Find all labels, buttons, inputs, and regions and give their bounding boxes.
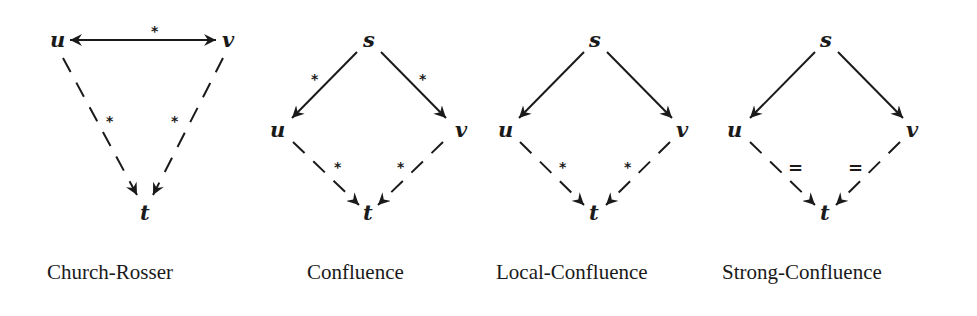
edge-v-t-dashed xyxy=(606,142,670,205)
node-v: v xyxy=(222,27,235,52)
edge-s-u xyxy=(292,52,357,118)
node-u: u xyxy=(498,117,513,142)
node-t: t xyxy=(820,200,830,225)
annotation-star: * xyxy=(419,71,427,87)
edge-v-t-dashed xyxy=(153,58,223,195)
edge-s-u xyxy=(519,52,584,118)
annotation-star: * xyxy=(171,113,179,129)
caption-strong-confluence: Strong-Confluence xyxy=(722,260,882,284)
caption-confluence: Confluence xyxy=(307,260,404,284)
node-u: u xyxy=(50,27,65,52)
caption-church-rosser: Church-Rosser xyxy=(47,260,173,284)
node-t: t xyxy=(589,200,599,225)
node-u: u xyxy=(727,117,742,142)
node-u: u xyxy=(270,117,285,142)
annotation-star: * xyxy=(559,159,567,175)
annotation-star: * xyxy=(311,71,319,87)
node-v: v xyxy=(455,117,468,142)
caption-local-confluence: Local-Confluence xyxy=(496,260,648,284)
node-v: v xyxy=(676,117,689,142)
node-t: t xyxy=(363,200,373,225)
node-s: s xyxy=(588,27,601,52)
annotation-star: * xyxy=(151,23,159,39)
edge-s-u xyxy=(750,52,815,118)
diagram-confluence: s u v t * * * * xyxy=(270,27,468,225)
node-s: s xyxy=(819,27,832,52)
diagram-local-confluence: s u v t * * xyxy=(498,27,689,225)
edge-s-v xyxy=(607,52,672,118)
annotation-star: * xyxy=(106,113,114,129)
diagram-strong-confluence: s u v t = = xyxy=(727,27,919,225)
edge-s-v xyxy=(381,52,446,118)
edge-u-t-dashed xyxy=(293,142,359,205)
edge-s-v xyxy=(838,52,903,118)
annotation-equals: = xyxy=(848,157,863,178)
node-v: v xyxy=(906,117,919,142)
annotation-star: * xyxy=(397,159,405,175)
annotation-equals: = xyxy=(788,157,803,178)
edge-v-t-dashed xyxy=(378,142,443,205)
edge-u-t-dashed xyxy=(520,142,584,205)
node-t: t xyxy=(140,200,150,225)
diagram-church-rosser: u v t * * * xyxy=(50,23,235,225)
edge-u-t-dashed xyxy=(63,58,137,195)
annotation-star: * xyxy=(624,159,632,175)
node-s: s xyxy=(362,27,375,52)
edge-v-t-dashed xyxy=(836,142,900,205)
rewriting-properties-figure: u v t * * * s u v t * * * * s u v t * * xyxy=(0,0,977,316)
annotation-star: * xyxy=(334,159,342,175)
edge-u-t-dashed xyxy=(750,142,815,205)
